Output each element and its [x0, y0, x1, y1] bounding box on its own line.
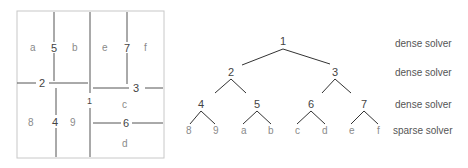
tree-node-3: 3	[332, 66, 338, 78]
region-f-label: f	[144, 42, 147, 53]
separator-3-label: 3	[133, 82, 139, 94]
region-9-label: 9	[70, 117, 76, 128]
region-e-label: e	[102, 42, 108, 53]
edge-6-c	[297, 111, 311, 124]
region-8-label: 8	[28, 117, 34, 128]
level-2-solver-label: dense solver	[395, 67, 452, 78]
region-c-label: c	[122, 99, 127, 110]
edge-5-b	[257, 111, 271, 124]
edge-2-5	[231, 79, 246, 93]
tree-leaf-c: c	[295, 125, 300, 136]
tree-leaf-b: b	[268, 125, 274, 136]
edge-4-8	[190, 111, 201, 124]
nested-dissection-diagram: a b e f 8 9 c d 1 2 3 4 5 6 7 1 2 3	[0, 0, 468, 168]
separator-6-label: 6	[123, 117, 129, 129]
separator-5-label: 5	[51, 42, 57, 54]
tree-labels: 1 2 3 4 5 6 7 8 9 a b c d e f	[186, 35, 380, 136]
level-1-solver-label: dense solver	[395, 38, 452, 49]
separator-7-label: 7	[124, 42, 130, 54]
separator-4-label: 4	[52, 116, 58, 128]
solver-labels: dense solver dense solver dense solver s…	[393, 38, 453, 136]
edge-7-e	[351, 111, 364, 124]
partitioned-domain: a b e f 8 9 c d 1 2 3 4 5 6 7	[17, 11, 164, 158]
edge-4-9	[201, 111, 215, 124]
edge-7-f	[364, 111, 378, 124]
separator-2-label: 2	[39, 77, 45, 89]
tree-leaf-8: 8	[186, 125, 192, 136]
edge-1-3	[283, 49, 330, 64]
tree-node-4: 4	[198, 98, 204, 110]
tree-node-5: 5	[254, 98, 260, 110]
separator-1-label: 1	[87, 96, 92, 106]
edge-2-4	[215, 79, 231, 93]
region-d-label: d	[122, 138, 128, 149]
tree-node-6: 6	[308, 98, 314, 110]
tree-leaf-e: e	[349, 125, 355, 136]
tree-node-7: 7	[361, 98, 367, 110]
tree-node-1: 1	[280, 35, 286, 47]
edge-3-7	[335, 79, 351, 93]
edge-6-d	[311, 111, 325, 124]
level-3-solver-label: dense solver	[395, 99, 452, 110]
tree-leaf-9: 9	[213, 125, 219, 136]
edge-3-6	[322, 79, 335, 93]
tree-leaf-f: f	[377, 125, 380, 136]
region-a-label: a	[30, 42, 36, 53]
region-b-label: b	[72, 42, 78, 53]
edge-5-a	[243, 111, 257, 124]
tree-leaf-d: d	[322, 125, 328, 136]
elimination-tree	[190, 49, 378, 124]
tree-node-2: 2	[228, 66, 234, 78]
level-4-solver-label: sparse solver	[393, 125, 453, 136]
edge-1-2	[242, 49, 283, 65]
tree-leaf-a: a	[241, 125, 247, 136]
